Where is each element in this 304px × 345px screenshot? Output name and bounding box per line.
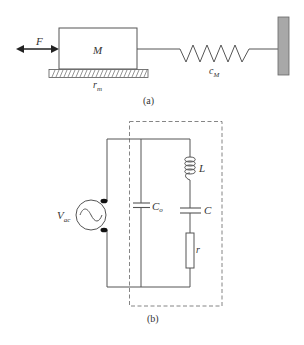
ac-source-icon [76,199,108,233]
diagram-canvas: F M rm cM (a) [0,0,304,345]
equivalent-circuit: Vac Co L C r (b) [57,122,222,326]
resistor-icon [186,233,194,268]
series-capacitor-label: C [204,204,212,216]
force-label: F [35,35,43,47]
caption-b: (b) [147,313,159,325]
caption-a: (a) [143,95,154,107]
spring-label: cM [209,65,220,79]
damping-base [49,70,148,78]
source-label: Vac [57,209,71,224]
inductor-label: L [198,162,205,174]
fixed-wall [278,17,289,75]
parallel-capacitor-icon [133,203,150,208]
mechanical-model: F M rm cM (a) [16,17,289,107]
resistor-label: r [196,244,200,255]
damping-label: rm [93,79,102,93]
circuit-wires [107,139,190,287]
parallel-capacitor-label: Co [152,200,163,214]
spring-icon [137,45,278,62]
mass-label: M [92,44,103,56]
inductor-icon [185,157,196,180]
series-capacitor-icon [180,208,201,213]
